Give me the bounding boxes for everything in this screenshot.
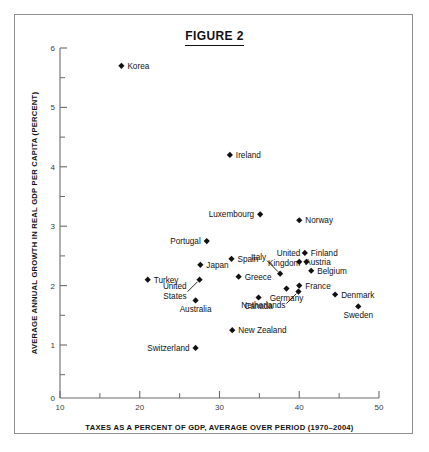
x-tick-label: 20 [135, 403, 144, 412]
point-label: Portugal [170, 237, 201, 246]
point-label: Switzerland [147, 344, 190, 353]
point-marker [229, 327, 235, 333]
x-tick-label: 30 [215, 403, 224, 412]
label-leader-line [188, 282, 198, 292]
point-marker [332, 291, 338, 297]
point-label: Belgium [317, 267, 347, 276]
y-tick-label: 4 [51, 163, 56, 172]
data-point: Austria [296, 258, 331, 267]
data-point: Belgium [308, 267, 347, 276]
y-tick-label: 5 [51, 103, 56, 112]
point-label: Denmark [341, 291, 375, 300]
y-origin-label: 0 [51, 394, 56, 403]
y-tick-label: 3 [51, 222, 56, 231]
point-label: Ireland [236, 151, 261, 160]
point-label: Austria [305, 258, 331, 267]
data-point: Korea [118, 62, 149, 71]
point-marker [204, 238, 210, 244]
point-label: France [305, 282, 331, 291]
point-label: Norway [305, 216, 334, 225]
data-point: Greece [236, 273, 272, 282]
point-label: United [277, 249, 301, 258]
point-label: Finland [311, 249, 338, 258]
data-point: Ireland [227, 151, 262, 160]
point-marker [118, 63, 124, 69]
point-marker [355, 303, 361, 309]
point-label: Australia [180, 305, 212, 314]
point-label: Japan [206, 261, 229, 270]
y-axis-title: AVERAGE ANNUAL GROWTH IN REAL GDP PER CA… [30, 92, 39, 355]
point-marker [296, 217, 302, 223]
y-tick-label: 6 [51, 44, 56, 53]
point-label: Turkey [154, 276, 180, 285]
point-label: Greece [245, 273, 272, 282]
point-marker [302, 250, 308, 256]
x-tick-label: 50 [375, 403, 384, 412]
figure-panel: FIGURE 2 12345601020304050 KoreaIrelandL… [14, 14, 413, 434]
data-point: Denmark [332, 291, 375, 300]
point-label: Canada [244, 302, 273, 311]
x-axis-title: TAXES AS A PERCENT OF GDP, AVERAGE OVER … [85, 423, 353, 432]
point-label: Italy [251, 253, 267, 262]
point-marker [192, 297, 198, 303]
data-point: Switzerland [147, 344, 198, 353]
point-marker [296, 283, 302, 289]
data-point: Japan [197, 261, 229, 270]
data-point: Luxembourg [209, 210, 264, 219]
y-tick-label: 2 [51, 282, 56, 291]
point-marker [257, 211, 263, 217]
data-point: New Zealand [229, 326, 287, 335]
point-label: Korea [127, 62, 149, 71]
data-point: France [296, 282, 331, 291]
point-label: States [163, 292, 186, 301]
point-marker [197, 262, 203, 268]
axes-group: 12345601020304050 [51, 44, 384, 412]
data-point: Sweden [343, 303, 373, 320]
point-marker [236, 274, 242, 280]
point-marker [227, 152, 233, 158]
y-tick-label: 1 [51, 341, 56, 350]
x-tick-label: 10 [56, 403, 65, 412]
data-point: Portugal [170, 237, 210, 246]
data-points-group: KoreaIrelandLuxembourgNorwayPortugalFinl… [118, 62, 375, 353]
point-label: New Zealand [238, 326, 287, 335]
point-marker [145, 277, 151, 283]
point-marker [228, 256, 234, 262]
scatter-plot: 12345601020304050 KoreaIrelandLuxembourg… [15, 15, 414, 435]
data-point: Turkey [145, 276, 180, 285]
point-marker [283, 285, 289, 291]
data-point: Norway [296, 216, 334, 225]
point-label: Sweden [343, 311, 373, 320]
data-point: Finland [302, 249, 338, 258]
point-label: Luxembourg [209, 210, 255, 219]
point-marker [192, 345, 198, 351]
point-marker [308, 268, 314, 274]
x-tick-label: 40 [295, 403, 304, 412]
